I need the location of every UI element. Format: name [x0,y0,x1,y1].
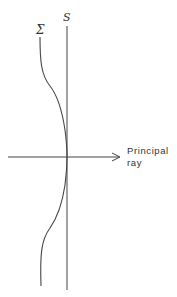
principal-ray-label-line1: Principal [127,145,169,156]
sigma-wavefront-curve [40,37,67,286]
sigma-label: Σ [35,23,45,37]
principal-ray-label-line2: ray [127,157,142,168]
s-label: S [63,11,71,24]
wavefront-diagram: Σ S Principal ray [0,0,177,297]
